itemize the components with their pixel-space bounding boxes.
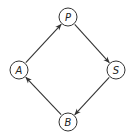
node-label: P	[65, 12, 72, 23]
node-label: A	[15, 65, 23, 76]
edge-b-to-a-arrow	[26, 77, 61, 114]
node-s: S	[107, 61, 125, 79]
edge-p-to-s-arrow	[75, 24, 110, 62]
node-p: P	[59, 8, 77, 26]
node-a: A	[10, 61, 28, 79]
node-label: B	[65, 117, 72, 128]
node-b: B	[59, 113, 77, 131]
edge-a-to-p-arrow	[26, 24, 61, 62]
edge-s-to-b-arrow	[75, 77, 109, 114]
cycle-diagram: PSBA	[0, 0, 134, 138]
node-label: S	[113, 65, 120, 76]
